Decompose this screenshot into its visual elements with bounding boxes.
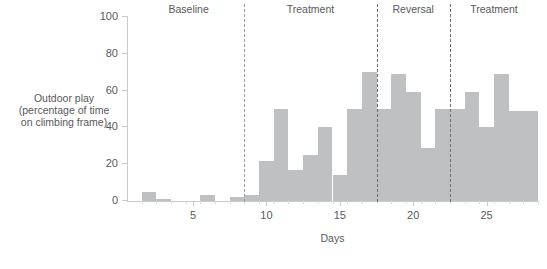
x-tick-minor [347, 201, 348, 204]
x-tick-minor [479, 201, 480, 204]
x-axis-label: Days [127, 232, 538, 244]
phase-divider [377, 4, 378, 202]
y-tick-label: 100 [100, 10, 118, 22]
x-tick-minor [142, 201, 143, 204]
x-tick-mark [487, 201, 488, 206]
phase-label: Reversal [393, 3, 434, 15]
bar [259, 161, 274, 201]
x-tick-minor [156, 201, 157, 204]
bar [318, 127, 333, 201]
bar [333, 175, 348, 201]
y-tick-label: 20 [106, 157, 118, 169]
phase-label: Treatment [470, 3, 517, 15]
bar [303, 155, 318, 201]
x-tick-minor [186, 201, 187, 204]
y-axis-label-line-2: (percentage of time [8, 104, 120, 116]
x-tick-minor [333, 201, 334, 204]
x-tick-mark [266, 201, 267, 206]
y-tick-mark [122, 126, 127, 127]
plot-area: 020406080100 510152025 BaselineTreatment… [127, 16, 538, 202]
bar [523, 111, 538, 201]
x-tick-minor [230, 201, 231, 204]
phase-label: Treatment [287, 3, 334, 15]
x-tick-label: 5 [190, 209, 196, 221]
x-tick-minor [318, 201, 319, 204]
y-axis-label-line-1: Outdoor play [8, 92, 120, 104]
bar [406, 92, 421, 201]
x-tick-minor [523, 201, 524, 204]
phase-divider [450, 4, 451, 202]
bar [391, 74, 406, 201]
y-tick-mark [122, 90, 127, 91]
bar [230, 197, 245, 201]
bar [142, 192, 157, 201]
x-tick-minor [171, 201, 172, 204]
bar [377, 109, 392, 201]
x-tick-minor [288, 201, 289, 204]
y-axis-line [127, 16, 128, 202]
y-tick-label: 0 [112, 194, 118, 206]
x-tick-minor [538, 201, 539, 204]
bar [156, 199, 171, 201]
x-tick-minor [274, 201, 275, 204]
bar [450, 109, 465, 201]
phase-divider [244, 4, 245, 202]
x-tick-label: 10 [260, 209, 272, 221]
phase-label: Baseline [169, 3, 209, 15]
x-tick-minor [259, 201, 260, 204]
x-tick-minor [200, 201, 201, 204]
x-tick-minor [465, 201, 466, 204]
x-tick-minor [303, 201, 304, 204]
x-tick-label: 25 [481, 209, 493, 221]
bar [347, 109, 362, 201]
x-tick-mark [193, 201, 194, 206]
y-tick-mark [122, 163, 127, 164]
bar [200, 195, 215, 201]
x-tick-minor [362, 201, 363, 204]
x-tick-minor [406, 201, 407, 204]
bar [362, 72, 377, 201]
x-tick-mark [340, 201, 341, 206]
y-tick-mark [122, 200, 127, 201]
y-tick-label: 80 [106, 47, 118, 59]
bar [479, 127, 494, 201]
y-axis-label-line-3: on climbing frame) [8, 116, 120, 128]
bar [494, 74, 509, 201]
y-tick-label: 40 [106, 120, 118, 132]
single-subject-design-bar-chart: Outdoor play (percentage of time on clim… [0, 0, 547, 269]
x-tick-label: 15 [334, 209, 346, 221]
x-tick-label: 20 [407, 209, 419, 221]
bar [274, 109, 289, 201]
bar [465, 92, 480, 201]
x-tick-minor [215, 201, 216, 204]
x-tick-minor [421, 201, 422, 204]
bar [509, 111, 524, 201]
bar [244, 195, 259, 201]
x-tick-mark [413, 201, 414, 206]
y-tick-mark [122, 53, 127, 54]
x-tick-minor [391, 201, 392, 204]
x-tick-minor [435, 201, 436, 204]
y-tick-label: 60 [106, 84, 118, 96]
y-axis-label: Outdoor play (percentage of time on clim… [8, 92, 120, 129]
bar [435, 109, 450, 201]
bar [421, 148, 436, 201]
x-tick-minor [494, 201, 495, 204]
bar [288, 170, 303, 201]
x-tick-minor [509, 201, 510, 204]
y-tick-mark [122, 16, 127, 17]
